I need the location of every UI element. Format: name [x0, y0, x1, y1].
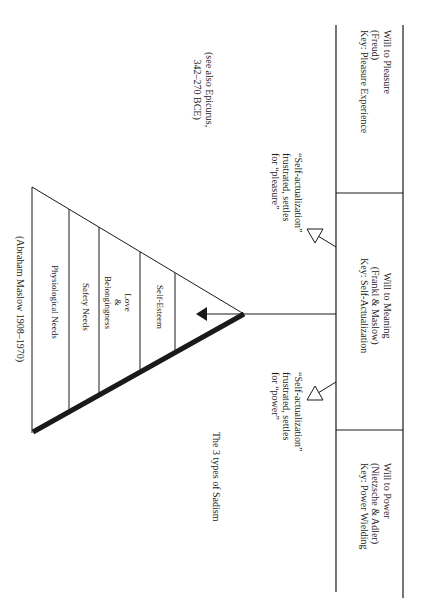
level-love-belongingness: Love & Belongingness: [103, 276, 133, 329]
epicurus-note: (see also Epicurus, 342–270 BCE): [192, 52, 215, 127]
pyramid-upper-edge: [32, 187, 244, 314]
note-line: “Self-actualization”: [293, 153, 305, 232]
column-source: (Frankl & Maslow): [370, 258, 382, 353]
level-line: Belongingness: [103, 276, 113, 329]
level-line: &: [113, 276, 123, 329]
column-title: Will to Pleasure: [382, 30, 394, 133]
column-title: Will to Power: [382, 463, 394, 550]
power-arrow-shaft: [318, 382, 336, 393]
level-self-esteem: Self-Esteem: [154, 285, 166, 329]
note-line: frustrated, settles: [281, 372, 293, 451]
filled-arrowhead-icon: [196, 307, 207, 321]
column-meaning: Will to Meaning (Frankl & Maslow) Key: S…: [359, 258, 394, 353]
column-pleasure: Will to Pleasure (Freud) Key: Pleasure E…: [359, 30, 394, 133]
column-key: Key: Pleasure Experience: [359, 30, 371, 133]
pyramid-lower-edge-thick: [33, 314, 244, 432]
note-line: “Self-actualization”: [293, 372, 305, 451]
note-line: frustrated, settles: [281, 153, 293, 232]
level-physiological-needs: Physiological Needs: [49, 265, 61, 339]
note-line: for “pleasure”: [270, 153, 282, 232]
pleasure-arrow-shaft: [318, 236, 336, 247]
power-arrow-note: “Self-actualization” frustrated, settles…: [270, 372, 305, 451]
level-line: Love: [123, 276, 133, 329]
column-key: Key: Power Wielding: [359, 463, 371, 550]
column-key: Key: Self-Actualization: [359, 258, 371, 353]
hollow-arrowhead-icon: [307, 229, 323, 243]
column-source: (Freud): [370, 30, 382, 133]
level-safety-needs: Safety Needs: [80, 283, 92, 331]
note-line: (see also Epicurus,: [204, 52, 216, 127]
column-source: (Nietzsche & Adler): [370, 463, 382, 550]
hollow-arrowhead-icon: [307, 386, 323, 400]
maslow-attribution: (Abraham Maslow 1908–1970): [15, 236, 27, 362]
note-line: 342–270 BCE): [192, 52, 204, 127]
column-power: Will to Power (Nietzsche & Adler) Key: P…: [359, 463, 394, 550]
column-title: Will to Meaning: [382, 258, 394, 353]
pleasure-arrow-note: “Self-actualization” frustrated, settles…: [270, 153, 305, 232]
note-line: for “power”: [270, 372, 282, 451]
sadism-label: The 3 types of Sadism: [211, 432, 223, 521]
